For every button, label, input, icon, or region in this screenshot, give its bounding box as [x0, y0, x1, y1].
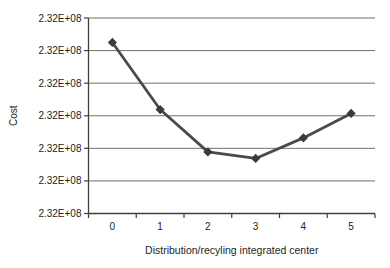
x-axis-title: Distribution/recyling integrated center [145, 244, 319, 256]
x-tick-label: 5 [348, 221, 354, 232]
y-tick-label: 2.32E+08 [38, 110, 82, 121]
chart-figure: 2.32E+082.32E+082.32E+082.32E+082.32E+08… [0, 0, 390, 268]
cost-series-line [112, 42, 351, 158]
y-tick-label: 2.32E+08 [38, 45, 82, 56]
data-point-diamond-marker [251, 154, 260, 163]
x-tick-label: 3 [253, 221, 259, 232]
y-tick-label: 2.32E+08 [38, 13, 82, 24]
y-axis-title: Cost [8, 105, 19, 126]
y-tick-label: 2.32E+08 [38, 175, 82, 186]
x-tick-label: 4 [301, 221, 307, 232]
x-tick-label: 2 [205, 221, 211, 232]
x-tick-label: 1 [157, 221, 163, 232]
x-tick-label: 0 [110, 221, 116, 232]
y-tick-label: 2.32E+08 [38, 78, 82, 89]
y-tick-label: 2.32E+08 [38, 143, 82, 154]
cost-line-chart: 2.32E+082.32E+082.32E+082.32E+082.32E+08… [0, 0, 390, 268]
y-tick-label: 2.32E+08 [38, 208, 82, 219]
